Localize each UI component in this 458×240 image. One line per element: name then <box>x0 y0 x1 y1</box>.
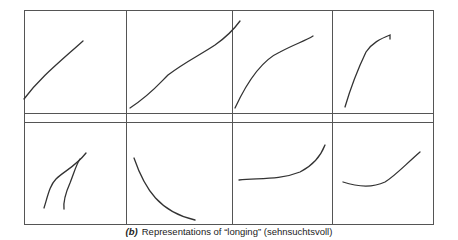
panel-3-stroke <box>235 36 313 108</box>
drawings-grid <box>0 0 458 240</box>
panel-1-stroke <box>24 41 83 99</box>
panel-4-stroke <box>345 35 390 107</box>
panel-2-stroke <box>130 21 240 108</box>
panel-8-stroke <box>343 152 420 186</box>
figure-label: (b) <box>126 226 138 237</box>
caption-text: Representations of “longing” (sehnsuchts… <box>142 226 333 237</box>
figure-caption: (b)Representations of “longing” (sehnsuc… <box>0 226 458 237</box>
panel-7-stroke <box>239 145 325 180</box>
panel-6-stroke <box>134 158 195 220</box>
grid-lines <box>24 10 434 225</box>
